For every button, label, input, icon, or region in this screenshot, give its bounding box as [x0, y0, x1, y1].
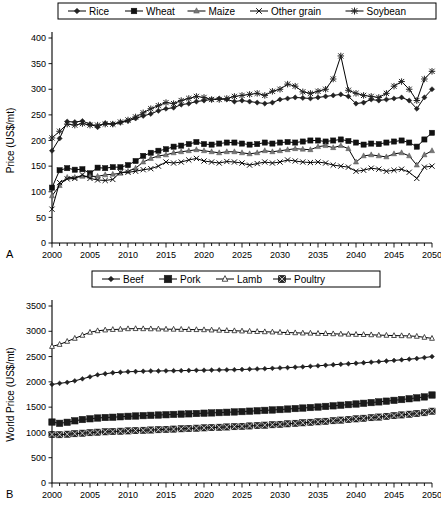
data-point-x: [407, 170, 412, 175]
data-point-square-big: [125, 413, 131, 419]
x-tick-label: 2005: [80, 490, 100, 500]
data-point-star: [406, 86, 413, 93]
data-point-diamond: [338, 362, 343, 367]
data-point-square-big: [87, 416, 93, 422]
data-point-square-big: [163, 411, 169, 417]
data-point-square-big: [186, 411, 192, 417]
data-point-square: [369, 141, 374, 146]
data-point-square-big: [216, 409, 222, 415]
data-point-square-big: [140, 412, 146, 418]
data-point-triangle: [338, 143, 343, 148]
data-point-diamond: [148, 369, 153, 374]
data-point-square-big: [193, 410, 199, 416]
data-point-square-big: [292, 405, 298, 411]
data-point-square: [95, 165, 100, 170]
data-point-star: [277, 86, 284, 93]
data-point-star: [155, 102, 162, 109]
data-point-diamond: [209, 368, 214, 373]
y-tick-label: 1500: [26, 402, 46, 412]
chart-b-svg: BeefPorkLambPoultry050010001500200025003…: [0, 268, 441, 512]
data-point-triangle: [194, 147, 199, 152]
y-tick-label: 2000: [26, 377, 46, 387]
data-point-diamond: [399, 357, 404, 362]
data-point-square: [131, 8, 137, 14]
data-point-diamond: [95, 372, 100, 377]
x-tick-label: 2005: [80, 250, 100, 260]
data-point-diamond: [285, 96, 290, 101]
data-point-star: [262, 92, 269, 99]
x-tick-label: 2045: [384, 250, 404, 260]
data-point-diamond: [323, 94, 328, 99]
data-point-square: [353, 140, 358, 145]
data-point-diamond: [240, 367, 245, 372]
series-path: [52, 158, 432, 209]
x-tick-label: 2050: [422, 250, 441, 260]
panel-label-a: A: [6, 248, 14, 260]
data-point-diamond: [293, 95, 298, 100]
data-point-diamond: [194, 368, 199, 373]
data-point-square-big: [284, 406, 290, 412]
data-point-star: [376, 94, 383, 101]
legend-label-wheat: Wheat: [146, 6, 175, 17]
data-point-diamond: [141, 369, 146, 374]
data-point-square-big: [315, 404, 321, 410]
data-point-diamond: [49, 148, 54, 153]
series-pork: [49, 392, 435, 427]
y-tick-label: 0: [41, 238, 46, 248]
data-point-diamond: [247, 99, 252, 104]
data-point-diamond: [239, 98, 244, 103]
data-point-diamond: [57, 136, 62, 141]
data-point-square-big: [231, 409, 237, 415]
data-point-diamond: [262, 366, 267, 371]
data-point-star: [125, 117, 132, 124]
data-point-square: [179, 143, 184, 148]
data-point-diamond: [354, 361, 359, 366]
data-point-star: [421, 76, 428, 83]
data-point-star: [368, 93, 375, 100]
data-point-square-big: [49, 419, 55, 425]
figure-root: RiceWheatMaizeOther grainSoybean05010015…: [0, 0, 441, 512]
data-point-diamond: [186, 101, 191, 106]
x-tick-label: 2010: [118, 250, 138, 260]
data-point-star: [269, 88, 276, 95]
y-tick-label: 300: [31, 84, 46, 94]
data-point-square-big: [155, 412, 161, 418]
data-point-star: [49, 135, 56, 142]
data-point-square: [308, 138, 313, 143]
legend-label-pork: Pork: [180, 274, 202, 285]
data-point-diamond: [399, 95, 404, 100]
data-point-star: [56, 128, 63, 135]
data-point-diamond: [308, 96, 313, 101]
data-point-square: [376, 141, 381, 146]
data-point-square: [80, 167, 85, 172]
y-tick-label: 200: [31, 136, 46, 146]
data-point-square: [141, 153, 146, 158]
data-point-diamond: [232, 367, 237, 372]
data-point-square: [414, 144, 419, 149]
x-tick-label: 2015: [156, 250, 176, 260]
data-point-star: [330, 76, 337, 83]
data-point-square-big: [421, 394, 427, 400]
data-point-square-big: [170, 411, 176, 417]
data-point-diamond: [300, 364, 305, 369]
data-point-diamond: [50, 382, 55, 387]
data-point-diamond: [202, 368, 207, 373]
data-point-square-big: [64, 419, 70, 425]
data-point-diamond: [293, 365, 298, 370]
data-point-star: [193, 93, 200, 100]
data-point-square: [277, 140, 282, 145]
data-point-star: [246, 91, 253, 98]
data-point-diamond: [384, 97, 389, 102]
data-point-star: [231, 93, 238, 100]
data-point-diamond: [156, 108, 161, 113]
data-point-square-big: [307, 404, 313, 410]
data-point-square: [285, 139, 290, 144]
legend-label-other-grain: Other grain: [271, 6, 321, 17]
data-point-triangle: [262, 148, 267, 153]
x-tick-label: 2035: [308, 490, 328, 500]
data-point-square-big: [338, 402, 344, 408]
y-tick-label: 50: [36, 213, 46, 223]
x-tick-label: 2000: [42, 250, 62, 260]
data-point-triangle: [429, 148, 434, 153]
data-point-square-big: [269, 407, 275, 413]
